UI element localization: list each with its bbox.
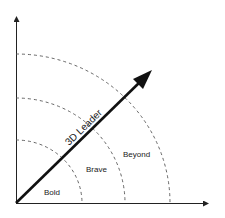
leadership-diagram: 3D Leader Bold Brave Beyond	[0, 0, 225, 218]
zone-label-beyond: Beyond	[123, 150, 150, 159]
leader-arrow	[16, 70, 152, 203]
zone-label-bold: Bold	[44, 188, 60, 197]
arrow-label: 3D Leader	[63, 107, 105, 148]
zone-label-brave: Brave	[86, 165, 107, 174]
